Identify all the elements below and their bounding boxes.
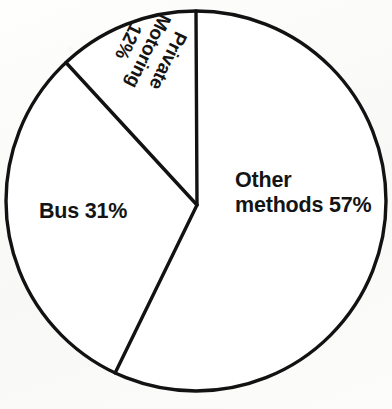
pie-divider-top <box>196 11 197 205</box>
slice-label-other-methods-line1: Other <box>235 168 371 193</box>
pie-chart-figure: Other methods 57% Bus 31% Private Motori… <box>0 0 392 409</box>
slice-label-bus: Bus 31% <box>39 199 127 224</box>
slice-label-other-methods-line2: methods 57% <box>235 193 371 218</box>
slice-label-bus-line1: Bus 31% <box>39 199 127 224</box>
slice-label-other-methods: Other methods 57% <box>235 168 371 219</box>
